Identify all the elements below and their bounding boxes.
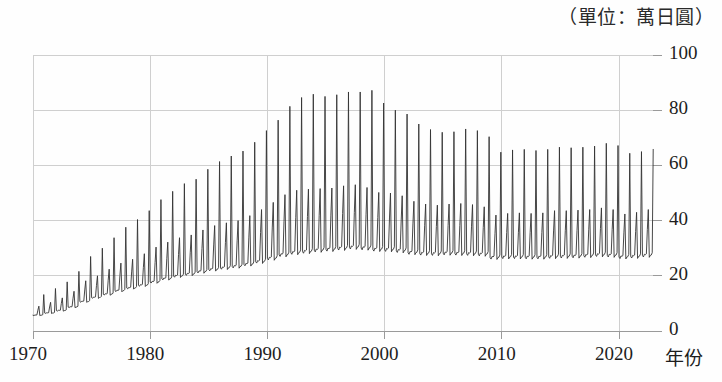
x-tick-label: 2000 [361, 343, 399, 365]
plot-area [0, 0, 722, 382]
y-tick-label: 40 [669, 208, 688, 230]
x-tick-label: 1970 [9, 343, 47, 365]
y-tick-label: 60 [669, 152, 688, 174]
x-tick-label: 1990 [243, 343, 281, 365]
x-axis-title: 年份 [665, 343, 703, 370]
y-tick-label: 0 [669, 318, 679, 340]
y-tick-label: 80 [669, 97, 688, 119]
x-tick-label: 2010 [478, 343, 516, 365]
series-line [33, 90, 653, 315]
chart-svg [0, 0, 722, 382]
chart-page: （單位：萬日圓） 020406080100 197019801990200020… [0, 0, 722, 382]
x-tick-label: 2020 [595, 343, 633, 365]
y-tick-label: 20 [669, 263, 688, 285]
x-tick-label: 1980 [126, 343, 164, 365]
y-tick-label: 100 [669, 42, 698, 64]
